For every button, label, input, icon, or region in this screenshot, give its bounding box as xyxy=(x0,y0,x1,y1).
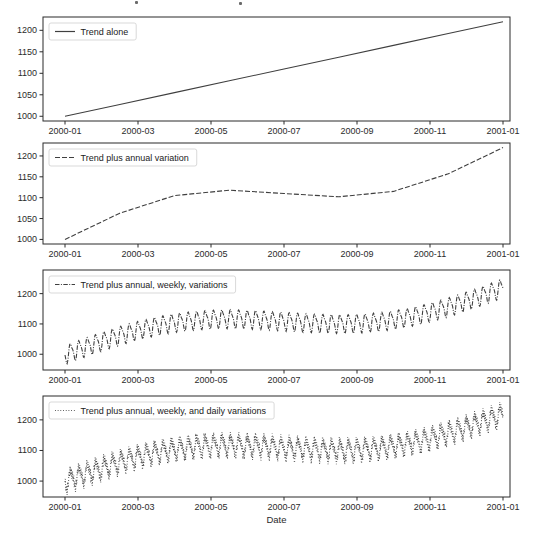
x-tick-label: 2000-09 xyxy=(340,126,373,136)
x-tick-label: 2000-09 xyxy=(340,502,373,512)
y-tick-label: 1200 xyxy=(17,289,37,299)
subplot-trend-plus-annual-weekly-daily: 1000110012002000-012000-032000-052000-07… xyxy=(0,396,536,537)
y-tick-label: 1200 xyxy=(17,415,37,425)
x-tick-label: 2000-05 xyxy=(194,502,227,512)
y-tick-label: 1050 xyxy=(17,214,37,224)
x-tick-label: 2000-01 xyxy=(48,126,81,136)
y-tick-label: 1100 xyxy=(18,445,37,455)
x-tick-label: 2000-11 xyxy=(414,375,446,385)
x-tick-label: 2000-05 xyxy=(194,375,227,385)
x-tick-label: 2000-09 xyxy=(340,249,373,259)
subplot-trend-alone: 100010501100115012002000-012000-032000-0… xyxy=(0,0,536,143)
x-tick-label: 2000-11 xyxy=(414,126,446,136)
x-tick-label: 2001-01 xyxy=(486,375,519,385)
x-tick-label: 2000-03 xyxy=(121,502,154,512)
y-tick-label: 1150 xyxy=(18,47,37,57)
x-tick-label: 2000-11 xyxy=(414,502,446,512)
x-tick-label: 2000-07 xyxy=(267,375,300,385)
x-tick-label: 2000-05 xyxy=(194,126,227,136)
y-tick-label: 1000 xyxy=(17,349,37,359)
y-tick-label: 1000 xyxy=(17,476,37,486)
x-tick-label: 2000-07 xyxy=(267,249,300,259)
legend-label: Trend alone xyxy=(81,27,129,37)
y-tick-label: 1150 xyxy=(18,172,37,182)
y-tick-label: 1000 xyxy=(17,234,37,244)
x-tick-label: 2001-01 xyxy=(486,126,519,136)
y-tick-label: 1200 xyxy=(17,25,37,35)
x-tick-label: 2000-05 xyxy=(194,249,227,259)
x-tick-label: 2000-07 xyxy=(267,126,300,136)
x-axis-title: Date xyxy=(266,514,286,525)
x-tick-label: 2000-01 xyxy=(48,502,81,512)
x-tick-label: 2000-11 xyxy=(414,249,446,259)
y-tick-label: 1100 xyxy=(18,68,37,78)
x-tick-label: 2000-03 xyxy=(121,126,154,136)
x-tick-label: 2001-01 xyxy=(486,502,519,512)
y-tick-label: 1050 xyxy=(17,90,37,100)
x-tick-label: 2000-03 xyxy=(121,375,154,385)
x-tick-label: 2000-03 xyxy=(121,249,154,259)
legend-label: Trend plus annual variation xyxy=(81,153,189,163)
x-tick-label: 2000-01 xyxy=(48,249,81,259)
legend-label: Trend plus annual, weekly, and daily var… xyxy=(81,406,267,416)
x-tick-label: 2000-01 xyxy=(48,375,81,385)
subplot-trend-plus-annual-weekly: 1000110012002000-012000-032000-052000-07… xyxy=(0,270,536,396)
x-tick-label: 2001-01 xyxy=(486,249,519,259)
y-tick-label: 1100 xyxy=(18,319,37,329)
subplot-trend-plus-annual: 100010501100115012002000-012000-032000-0… xyxy=(0,143,536,270)
time-series-figure: 100010501100115012002000-012000-032000-0… xyxy=(0,0,536,537)
y-tick-label: 1100 xyxy=(18,193,37,203)
y-tick-label: 1200 xyxy=(17,151,37,161)
x-tick-label: 2000-09 xyxy=(340,375,373,385)
y-tick-label: 1000 xyxy=(17,111,37,121)
x-tick-label: 2000-07 xyxy=(267,502,300,512)
legend-label: Trend plus annual, weekly, variations xyxy=(81,280,229,290)
